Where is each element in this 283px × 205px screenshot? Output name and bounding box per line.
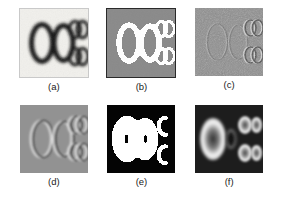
panel-d-svg <box>20 105 88 173</box>
panel-a-svg <box>20 9 88 77</box>
panel-c-image <box>195 8 263 76</box>
panel-a-caption: (a) <box>48 81 60 92</box>
panel-c-svg <box>195 8 263 76</box>
panel-e: (e) <box>98 105 186 202</box>
panel-e-svg <box>107 105 175 173</box>
panel-b-svg <box>107 9 175 77</box>
panel-f-caption: (f) <box>225 176 234 187</box>
panel-f-image <box>195 105 263 173</box>
panel-grid: (a) <box>0 0 283 205</box>
panel-c-caption: (c) <box>224 79 235 90</box>
panel-e-image <box>107 105 175 173</box>
panel-e-caption: (e) <box>136 176 148 187</box>
panel-a: (a) <box>10 8 98 105</box>
panel-a-image <box>19 8 89 78</box>
panel-b: (b) <box>98 8 186 105</box>
panel-d: (d) <box>10 105 98 202</box>
panel-b-caption: (b) <box>136 81 148 92</box>
panel-d-caption: (d) <box>48 176 60 187</box>
panel-c: (c) <box>185 8 273 105</box>
panel-b-image <box>106 8 176 78</box>
panel-f-svg <box>195 105 263 173</box>
figure-panel-grid: (a) <box>0 0 283 205</box>
panel-d-image <box>20 105 88 173</box>
panel-f: (f) <box>185 105 273 202</box>
